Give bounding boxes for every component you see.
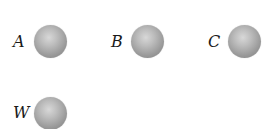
sphere-c [228,25,261,58]
sphere-w [34,97,67,129]
sphere-b [131,25,164,58]
sphere-label-w: W [13,105,29,121]
sphere-label-b: B [111,34,123,50]
sphere-a [34,25,67,58]
sphere-label-a: A [13,34,25,50]
sphere-label-c: C [208,34,220,50]
